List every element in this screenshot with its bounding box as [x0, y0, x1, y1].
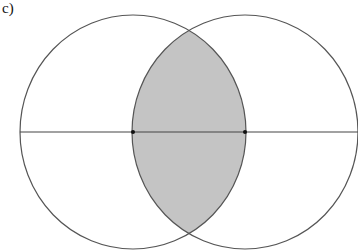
venn-diagram	[0, 0, 358, 251]
left-center-point	[131, 130, 135, 134]
right-center-point	[243, 130, 247, 134]
